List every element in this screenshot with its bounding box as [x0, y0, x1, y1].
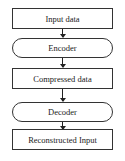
arrow-down-icon — [62, 122, 63, 129]
node-label: Encoder — [48, 43, 76, 53]
arrow-down-icon — [62, 29, 63, 37]
node-label: Input data — [45, 14, 79, 24]
node-encoder: Encoder — [12, 38, 113, 58]
node-label: Decoder — [48, 107, 77, 117]
node-reconstructed-input: Reconstructed Input — [12, 129, 113, 150]
node-label: Reconstructed Input — [28, 135, 97, 145]
arrow-down-icon — [62, 89, 63, 101]
node-input-data: Input data — [12, 8, 113, 29]
arrow-down-icon — [62, 58, 63, 67]
node-decoder: Decoder — [12, 102, 113, 122]
node-compressed-data: Compressed data — [12, 68, 113, 89]
node-label: Compressed data — [33, 74, 91, 84]
